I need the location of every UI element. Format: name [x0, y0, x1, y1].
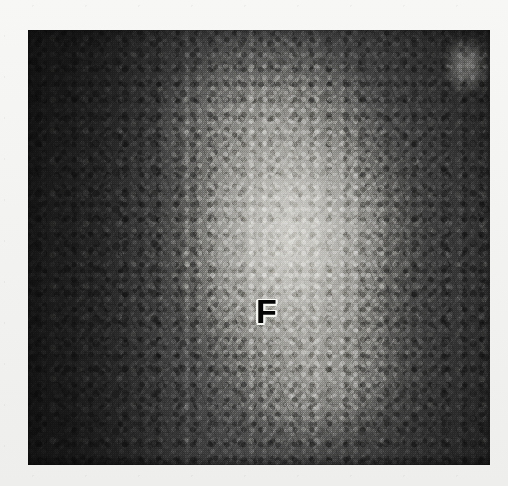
follicle-label-f: F: [256, 294, 277, 328]
figure-page: F: [0, 0, 508, 486]
plate-edge-shading: [28, 30, 490, 465]
micrograph-plate: F: [28, 30, 490, 465]
